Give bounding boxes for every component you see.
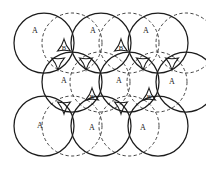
label-a-site: A [140, 123, 146, 132]
dashed-sphere [99, 13, 159, 73]
solid-sphere [128, 13, 188, 73]
dashed-sphere [99, 96, 159, 156]
label-a-site: A [143, 26, 149, 35]
void-triangle [52, 58, 65, 70]
void-triangle [137, 58, 150, 70]
label-b-site: B [119, 44, 124, 51]
label-a-site: A [89, 123, 95, 132]
solid-sphere [128, 96, 188, 156]
label-a-site: A [169, 77, 175, 86]
solid-sphere [71, 96, 131, 156]
label-a-site: A [116, 76, 122, 85]
label-a-site: A [61, 76, 67, 85]
solid-sphere [99, 52, 159, 112]
label-b-site: B [90, 93, 95, 100]
label-a-site: A [37, 121, 43, 130]
label-b-site: B [147, 93, 152, 100]
sphere-packing-diagram: AAAAAAAAABBBB [0, 0, 206, 169]
void-triangle [166, 58, 179, 70]
dashed-sphere [42, 13, 102, 73]
close-packing-figure: AAAAAAAAABBBB [0, 0, 206, 169]
label-a-site: A [90, 26, 96, 35]
site-label-layer: AAAAAAAAABBBB [32, 26, 175, 132]
solid-sphere [42, 52, 102, 112]
interstitial-void-layer [52, 39, 179, 114]
solid-sphere [156, 52, 206, 112]
label-a-site: A [32, 26, 38, 35]
void-triangle [80, 58, 93, 70]
solid-sphere [14, 96, 74, 156]
label-b-site: B [62, 44, 67, 51]
